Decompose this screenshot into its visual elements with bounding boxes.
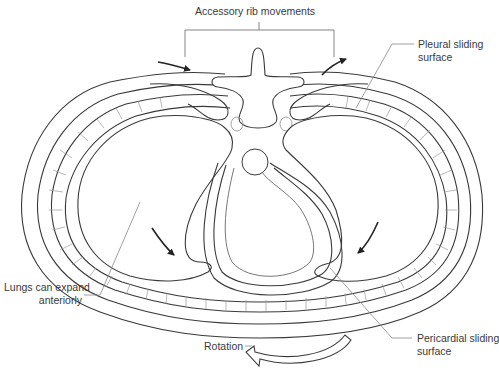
lungs-expand-label: Lungs can expand anteriorly xyxy=(4,281,82,307)
aorta xyxy=(242,149,268,175)
pericardial-label-line2: surface xyxy=(417,345,499,358)
lungs-label-line1: Lungs can expand xyxy=(4,281,82,294)
rotation-arrow xyxy=(246,335,351,366)
vertebra xyxy=(212,48,304,128)
accessory-rib-movements-label: Accessory rib movements xyxy=(0,5,494,18)
pleural-label-line1: Pleural sliding xyxy=(418,38,483,51)
rotation-label: Rotation xyxy=(204,340,243,353)
lungs-label-line2: anteriorly xyxy=(4,294,82,307)
pleural-sliding-surface-label: Pleural sliding surface xyxy=(418,38,483,64)
pericardial-label-line1: Pericardial sliding xyxy=(417,332,499,345)
left-lung xyxy=(78,116,233,281)
right-lung xyxy=(283,116,438,282)
accessory-arrow-left xyxy=(158,62,190,70)
pericardial-sliding-surface-label: Pericardial sliding surface xyxy=(417,332,499,358)
heart xyxy=(225,168,313,276)
pleural-label-line2: surface xyxy=(418,51,483,64)
